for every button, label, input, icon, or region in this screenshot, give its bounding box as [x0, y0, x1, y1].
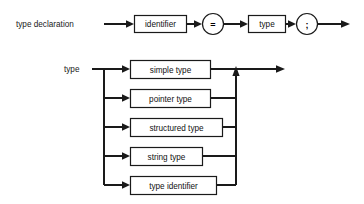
arrow-head-into-simple-type	[122, 65, 130, 73]
box-label-identifier: identifier	[145, 20, 176, 29]
production-label-type-declaration: type declaration	[16, 20, 74, 29]
box-label-string-type: string type	[148, 153, 186, 162]
production-label-type: type	[64, 65, 80, 74]
terminal-label-semicolon: ;	[306, 20, 309, 30]
production-type-declaration: type declaration identifier = type	[16, 14, 350, 35]
alternative-simple-type: simple type	[104, 61, 236, 79]
arrow-head-merge-up	[232, 66, 239, 76]
terminal-label-equals: =	[210, 20, 215, 30]
box-label-type-identifier: type identifier	[149, 182, 198, 191]
arrow-head-into-type-identifier	[122, 181, 130, 189]
box-label-pointer-type: pointer type	[149, 95, 192, 104]
arrow-head-into-semicolon	[288, 20, 296, 28]
alternative-structured-type: structured type	[104, 119, 236, 137]
arrow-head-into-type	[240, 20, 248, 28]
alternative-pointer-type: pointer type	[104, 90, 236, 108]
arrow-head-into-structured-type	[122, 123, 130, 131]
alternative-string-type: string type	[104, 148, 236, 166]
arrow-head-into-string-type	[122, 152, 130, 160]
arrow-head-into-equals	[194, 20, 202, 28]
arrow-head-exit-2	[276, 65, 285, 73]
arrow-head-into-identifier	[126, 20, 134, 28]
railroad-diagram-svg: type declaration identifier = type	[0, 0, 364, 204]
box-label-simple-type: simple type	[150, 66, 192, 75]
alternative-type-identifier: type identifier	[104, 177, 236, 195]
arrow-head-exit-1	[341, 20, 350, 28]
arrow-head-into-pointer-type	[122, 94, 130, 102]
box-label-structured-type: structured type	[149, 124, 204, 133]
production-type: type simple type pointer type	[64, 61, 285, 195]
syntax-diagram-canvas: type declaration identifier = type	[0, 0, 364, 204]
box-label-type: type	[259, 20, 275, 29]
